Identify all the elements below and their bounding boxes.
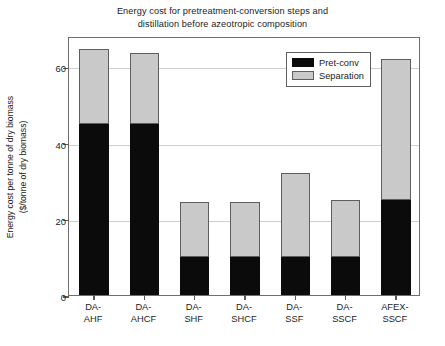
x-axis-tick-label-line-1: AFEX- [370, 302, 420, 314]
x-axis-tick [194, 295, 195, 300]
bar-segment-separation [180, 202, 209, 257]
bar-segment-pret-conv [230, 257, 259, 295]
x-axis-tick-label-line-1: DA- [219, 302, 269, 314]
bar-segment-pret-conv [79, 124, 108, 295]
bar-da-shcf [230, 202, 259, 295]
x-axis-tick-label-line-2: SSF [269, 314, 319, 326]
y-axis-tick-label: 20 [56, 215, 66, 226]
bar-da-sscf [331, 200, 360, 295]
x-axis-tick [295, 295, 296, 300]
bar-segment-pret-conv [281, 257, 310, 295]
y-axis-title-line-2: ($/tonne of dry biomass) [16, 95, 29, 237]
x-axis-tick-label-line-1: DA- [319, 302, 369, 314]
legend-label-separation: Separation [319, 71, 364, 81]
bar-segment-pret-conv [130, 124, 159, 295]
chart-title-line-2: distillation before azeotropic compositi… [0, 18, 445, 31]
chart-title-line-1: Energy cost for pretreatment-conversion … [0, 5, 445, 18]
x-axis-tick-label-line-1: DA- [169, 302, 219, 314]
x-axis-tick-label-line-2: SHF [169, 314, 219, 326]
bar-segment-separation [281, 173, 310, 257]
bar-da-ssf [281, 173, 310, 295]
y-axis-tick-label: 60 [56, 63, 66, 74]
y-axis-tick-label: 40 [56, 139, 66, 150]
x-axis-tick [345, 295, 346, 300]
y-axis-tick-label: 0 [61, 292, 66, 303]
bar-segment-separation [331, 200, 360, 257]
x-axis-tick-label-line-2: AHCF [118, 314, 168, 326]
bar-segment-pret-conv [331, 257, 360, 295]
y-axis-title-container: Energy cost per tonne of dry biomass ($/… [2, 37, 30, 296]
x-axis-tick [395, 295, 396, 300]
x-axis-tick-label-line-2: AHF [68, 314, 118, 326]
x-axis-tick-label: DA-SHCF [219, 302, 269, 325]
legend-item-pret-conv: Pret-conv [292, 56, 364, 69]
x-axis-tick-label: DA-AHF [68, 302, 118, 325]
bar-da-ahf [79, 49, 108, 295]
x-axis-tick-label-line-1: DA- [118, 302, 168, 314]
gray-swatch-icon [292, 71, 314, 80]
bar-afex-sscf [381, 59, 410, 295]
x-axis-tick-label-line-2: SSCF [370, 314, 420, 326]
x-axis-tick-label-line-1: DA- [269, 302, 319, 314]
bar-da-shf [180, 202, 209, 295]
x-axis-tick [93, 295, 94, 300]
x-axis-tick-label: AFEX-SSCF [370, 302, 420, 325]
bar-da-ahcf [130, 53, 159, 295]
bar-segment-separation [79, 49, 108, 123]
x-axis-tick-label: DA-SSCF [319, 302, 369, 325]
x-axis-tick [244, 295, 245, 300]
x-axis-tick-label: DA-SSF [269, 302, 319, 325]
gridline [69, 145, 419, 146]
black-swatch-icon [292, 58, 314, 67]
x-axis-tick-label: DA-AHCF [118, 302, 168, 325]
y-axis-title-line-1: Energy cost per tonne of dry biomass [4, 95, 17, 237]
y-axis-title: Energy cost per tonne of dry biomass ($/… [4, 95, 29, 237]
chart-figure: Energy cost for pretreatment-conversion … [0, 0, 445, 346]
legend-item-separation: Separation [292, 69, 364, 82]
chart-title: Energy cost for pretreatment-conversion … [0, 5, 445, 31]
bar-segment-separation [230, 202, 259, 257]
x-axis-tick-label-line-1: DA- [68, 302, 118, 314]
legend-label-pret-conv: Pret-conv [319, 58, 359, 68]
bar-segment-pret-conv [381, 200, 410, 295]
x-axis-tick-label-line-2: SSCF [319, 314, 369, 326]
legend: Pret-conv Separation [286, 52, 371, 87]
bar-segment-separation [381, 59, 410, 200]
bar-segment-pret-conv [180, 257, 209, 295]
x-axis-tick [144, 295, 145, 300]
x-axis-tick-label-line-2: SHCF [219, 314, 269, 326]
x-axis-tick-label: DA-SHF [169, 302, 219, 325]
bar-segment-separation [130, 53, 159, 123]
